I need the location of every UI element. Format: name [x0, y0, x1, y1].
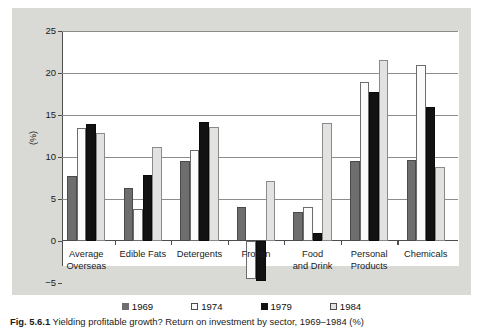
caption-figure-number: Fig. 5.6.1: [10, 316, 50, 327]
y-tick-mark-15: [58, 115, 62, 116]
x-tick-4: [341, 241, 342, 245]
legend-item-1984[interactable]: 1984: [330, 301, 361, 312]
gridline-10: [62, 157, 458, 158]
x-tick-3: [284, 241, 285, 245]
x-tick-2: [228, 241, 229, 245]
y-tick-label--5: −5: [36, 278, 56, 288]
legend-swatch-icon-1969: [122, 303, 129, 310]
bar-1979-3: [256, 241, 266, 281]
y-tick-mark-20: [58, 73, 62, 74]
bar-1974-5: [360, 82, 370, 241]
bar-1969-0: [67, 176, 77, 241]
category-label-6: Chemicals: [391, 249, 460, 261]
legend-label-1969: 1969: [132, 301, 153, 312]
y-tick-mark-25: [58, 31, 62, 32]
chart-legend: 1969197419791984: [12, 299, 471, 313]
legend-swatch-icon-1979: [261, 303, 268, 310]
y-tick-label-20: 20: [36, 68, 56, 78]
legend-item-1969[interactable]: 1969: [122, 301, 153, 312]
x-tick-5: [397, 241, 398, 245]
gridline-15: [62, 115, 458, 116]
bar-1979-4: [313, 233, 323, 241]
bar-1979-5: [369, 92, 379, 241]
y-tick-label-5: 5: [36, 194, 56, 204]
bar-1979-0: [86, 124, 96, 241]
legend-item-1974[interactable]: 1974: [191, 301, 222, 312]
y-axis-label: (%): [28, 131, 38, 145]
bar-1984-0: [96, 133, 106, 241]
bar-1974-0: [77, 128, 87, 241]
legend-label-1984: 1984: [340, 301, 361, 312]
bar-1974-4: [303, 207, 313, 241]
gridline-25: [62, 31, 458, 32]
y-tick-mark--5: [58, 283, 62, 284]
gridline-20: [62, 73, 458, 74]
bar-1974-2: [190, 150, 200, 241]
x-tick-1: [171, 241, 172, 245]
bar-1969-5: [350, 161, 360, 241]
gridline-5: [62, 199, 458, 200]
bar-1979-2: [199, 122, 209, 241]
figure-caption: Fig. 5.6.1 Yielding profitable growth? R…: [10, 316, 480, 327]
plot-background: [62, 31, 459, 241]
bar-1969-2: [180, 161, 190, 241]
bar-1984-1: [152, 147, 162, 241]
bar-1984-2: [209, 127, 219, 241]
legend-label-1979: 1979: [271, 301, 292, 312]
y-tick-mark-10: [58, 157, 62, 158]
bar-1979-1: [143, 175, 153, 241]
bar-1969-3: [237, 207, 247, 241]
y-tick-label-25: 25: [36, 26, 56, 36]
bar-1969-1: [124, 188, 134, 241]
legend-swatch-icon-1984: [330, 303, 337, 310]
bar-1974-1: [133, 209, 143, 241]
y-tick-label-10: 10: [36, 152, 56, 162]
y-tick-label-15: 15: [36, 110, 56, 120]
legend-label-1974: 1974: [201, 301, 222, 312]
bar-1969-6: [407, 160, 417, 241]
x-tick-0: [115, 241, 116, 245]
y-tick-mark-5: [58, 199, 62, 200]
plot-area: [62, 31, 458, 241]
bar-1969-4: [293, 212, 303, 241]
bar-1984-3: [266, 181, 276, 241]
caption-text: Yielding profitable growth? Return on in…: [53, 316, 364, 327]
bar-1984-4: [322, 123, 332, 241]
bar-1974-6: [416, 65, 426, 241]
legend-swatch-icon-1974: [191, 303, 198, 310]
bar-1984-5: [379, 60, 389, 241]
legend-item-1979[interactable]: 1979: [261, 301, 292, 312]
bar-1984-6: [435, 167, 445, 241]
bar-1979-6: [426, 107, 436, 241]
y-tick-mark-0: [58, 241, 62, 242]
y-tick-label-0: 0: [36, 236, 56, 246]
